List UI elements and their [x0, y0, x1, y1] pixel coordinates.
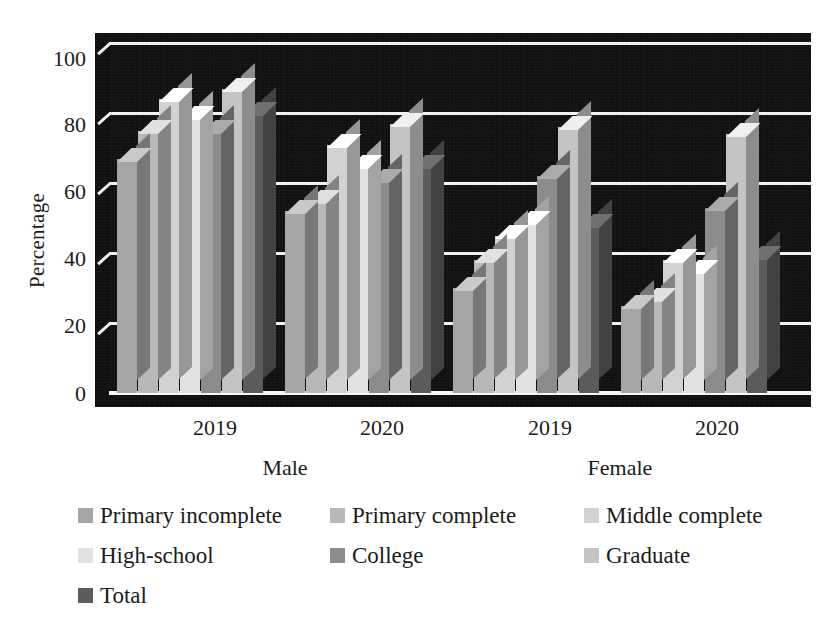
legend-item-primary-incomplete[interactable]: Primary incomplete: [78, 504, 330, 527]
legend-swatch-icon: [78, 508, 93, 523]
plot-area: [95, 33, 811, 407]
legend-swatch-icon: [78, 588, 93, 603]
bar-group: [621, 47, 777, 393]
y-tick-label: 60: [64, 181, 86, 203]
bar-face: [285, 211, 305, 393]
bar-side: [178, 73, 192, 380]
legend-item-graduate[interactable]: Graduate: [584, 544, 818, 567]
bar-side: [577, 101, 591, 380]
bar-side: [724, 181, 738, 380]
bar-side: [241, 62, 255, 380]
y-tick-label: 40: [64, 248, 86, 270]
x-tick-label: 2020: [322, 415, 442, 441]
y-axis-tick-labels: 100 80 60 40 20 0: [24, 0, 86, 420]
legend-row: Total: [78, 575, 818, 615]
bar-side: [325, 174, 339, 380]
bar-side: [157, 104, 171, 380]
x-tick-label: 2019: [155, 415, 275, 441]
bar-face: [117, 159, 137, 394]
bar[interactable]: [117, 159, 137, 394]
legend-swatch-icon: [584, 548, 599, 563]
legend-row: Primary incomplete Primary complete Midd…: [78, 495, 818, 535]
bar-side: [136, 132, 150, 380]
x-tick-label: 2019: [490, 415, 610, 441]
legend-label: High-school: [100, 544, 214, 567]
legend-label: Primary complete: [352, 504, 516, 527]
bar-face: [621, 306, 641, 394]
bar-side: [220, 104, 234, 380]
legend-swatch-icon: [584, 508, 599, 523]
legend-item-total[interactable]: Total: [78, 584, 330, 607]
legend-row: High-school College Graduate: [78, 535, 818, 575]
bar-side: [304, 185, 318, 380]
legend-swatch-icon: [78, 548, 93, 563]
bar-side: [745, 108, 759, 380]
bar-series-container: [95, 33, 811, 407]
bar-face: [453, 288, 473, 393]
bar-side: [367, 139, 381, 380]
y-tick-label: 20: [64, 315, 86, 337]
legend-item-primary-complete[interactable]: Primary complete: [330, 504, 584, 527]
bar-side: [388, 153, 402, 380]
legend-label: Primary incomplete: [100, 504, 282, 527]
legend-label: Graduate: [606, 544, 690, 567]
bar[interactable]: [453, 288, 473, 393]
bar[interactable]: [621, 306, 641, 394]
bar-side: [199, 90, 213, 380]
bar-chart: Percentage 100 80 60 40 20 0 20192020201…: [0, 0, 839, 620]
legend-label: College: [352, 544, 424, 567]
legend-label: Total: [100, 584, 147, 607]
bar-side: [430, 139, 444, 380]
bar-side: [346, 118, 360, 380]
legend-label: Middle complete: [606, 504, 763, 527]
y-tick-label: 100: [53, 48, 86, 70]
y-tick-label: 0: [75, 383, 86, 405]
y-tick-label: 80: [64, 114, 86, 136]
bar-side: [556, 150, 570, 380]
bar-group: [117, 47, 273, 393]
bar-group: [285, 47, 441, 393]
legend-item-middle-complete[interactable]: Middle complete: [584, 504, 818, 527]
legend: Primary incomplete Primary complete Midd…: [78, 495, 818, 615]
group-label-male: Male: [205, 455, 365, 481]
x-tick-label: 2020: [657, 415, 777, 441]
bar[interactable]: [285, 211, 305, 393]
legend-item-high-school[interactable]: High-school: [78, 544, 330, 567]
legend-swatch-icon: [330, 548, 345, 563]
legend-item-college[interactable]: College: [330, 544, 584, 567]
group-label-female: Female: [540, 455, 700, 481]
bar-side: [262, 87, 276, 380]
legend-swatch-icon: [330, 508, 345, 523]
bar-side: [409, 97, 423, 380]
bar-group: [453, 47, 609, 393]
